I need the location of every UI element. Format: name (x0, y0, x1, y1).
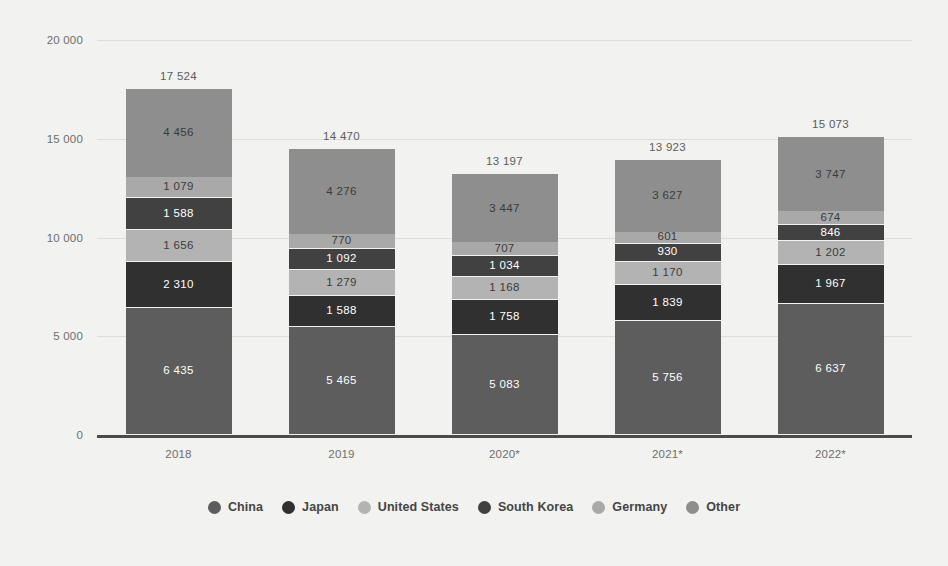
bar-segment-value: 1 967 (815, 278, 845, 290)
legend-label: Other (706, 500, 740, 514)
bar-segment[interactable]: 5 083 (452, 335, 558, 435)
bar-segment-value: 770 (331, 235, 351, 247)
bar-segment[interactable]: 1 168 (452, 277, 558, 300)
legend-label: Japan (302, 500, 339, 514)
bar-segment-value: 6 435 (163, 365, 193, 377)
bar-group[interactable]: 3 6276019301 1701 8395 75613 9232021* (615, 160, 721, 435)
bar-segment[interactable]: 770 (289, 234, 395, 249)
y-tick-label: 5 000 (53, 330, 83, 342)
bar-segment[interactable]: 846 (778, 225, 884, 242)
bar-series-container: 4 4561 0791 5881 6562 3106 43517 5242018… (97, 40, 912, 435)
bar-segment-value: 1 758 (489, 311, 519, 323)
legend-item[interactable]: United States (358, 500, 459, 514)
bar-segment-value: 6 637 (815, 363, 845, 375)
bar-group[interactable]: 4 4561 0791 5881 6562 3106 43517 5242018 (126, 89, 232, 435)
bar-segment-value: 4 276 (326, 186, 356, 198)
bar-segment-value: 5 083 (489, 379, 519, 391)
plot-area: Sales in million U.S. dollars 05 00010 0… (97, 40, 912, 438)
bar-segment[interactable]: 6 435 (126, 308, 232, 435)
bar-total-label: 17 524 (126, 70, 232, 82)
bar-segment-value: 1 656 (163, 240, 193, 252)
bar-segment-value: 1 202 (815, 247, 845, 259)
legend-label: United States (378, 500, 459, 514)
y-tick-label: 15 000 (47, 133, 83, 145)
legend-item[interactable]: China (208, 500, 263, 514)
x-tick-label: 2019 (289, 448, 395, 460)
bar-segment-value: 1 079 (163, 181, 193, 193)
legend-item[interactable]: Other (686, 500, 740, 514)
y-tick-label: 10 000 (47, 232, 83, 244)
y-tick-label: 20 000 (47, 34, 83, 46)
bar-stack: 3 6276019301 1701 8395 75613 9232021* (615, 160, 721, 435)
bar-segment-value: 930 (657, 246, 677, 258)
stacked-bar-chart: Sales in million U.S. dollars 05 00010 0… (0, 0, 948, 566)
legend-swatch-icon (592, 501, 605, 514)
bar-segment[interactable]: 1 202 (778, 241, 884, 265)
bar-segment-value: 846 (820, 227, 840, 239)
bar-segment-value: 5 465 (326, 375, 356, 387)
x-tick-label: 2021* (615, 448, 721, 460)
x-tick-label: 2022* (778, 448, 884, 460)
bar-segment[interactable]: 6 637 (778, 304, 884, 435)
bar-stack: 3 4477071 0341 1681 7585 08313 1972020* (452, 174, 558, 435)
bar-segment[interactable]: 1 279 (289, 270, 395, 295)
bar-group[interactable]: 3 4477071 0341 1681 7585 08313 1972020* (452, 174, 558, 435)
bar-segment[interactable]: 1 656 (126, 230, 232, 263)
bar-segment[interactable]: 1 092 (289, 249, 395, 271)
bar-segment[interactable]: 601 (615, 232, 721, 244)
legend-label: Germany (612, 500, 667, 514)
bar-segment-value: 5 756 (652, 372, 682, 384)
legend-swatch-icon (282, 501, 295, 514)
bar-stack: 4 4561 0791 5881 6562 3106 43517 5242018 (126, 89, 232, 435)
legend-swatch-icon (358, 501, 371, 514)
chart-legend: ChinaJapanUnited StatesSouth KoreaGerman… (0, 500, 948, 514)
legend-item[interactable]: Germany (592, 500, 667, 514)
bar-segment[interactable]: 2 310 (126, 262, 232, 308)
bar-segment-value: 1 168 (489, 282, 519, 294)
bar-segment[interactable]: 1 758 (452, 300, 558, 335)
bar-segment[interactable]: 1 079 (126, 177, 232, 198)
bar-stack: 4 2767701 0921 2791 5885 46514 4702019 (289, 149, 395, 435)
bar-total-label: 15 073 (778, 118, 884, 130)
bar-segment[interactable]: 4 456 (126, 89, 232, 177)
bar-segment[interactable]: 1 170 (615, 262, 721, 285)
x-tick-label: 2018 (126, 448, 232, 460)
bar-segment[interactable]: 5 756 (615, 321, 721, 435)
bar-segment[interactable]: 674 (778, 211, 884, 224)
legend-item[interactable]: South Korea (478, 500, 573, 514)
legend-swatch-icon (208, 501, 221, 514)
bar-segment-value: 3 627 (652, 190, 682, 202)
bar-segment-value: 1 034 (489, 260, 519, 272)
bar-segment[interactable]: 930 (615, 244, 721, 262)
bar-segment[interactable]: 3 627 (615, 160, 721, 232)
bar-segment[interactable]: 1 588 (289, 296, 395, 327)
bar-segment-value: 1 279 (326, 277, 356, 289)
bar-total-label: 13 197 (452, 155, 558, 167)
y-tick-label: 0 (76, 429, 83, 441)
bar-segment-value: 4 456 (163, 127, 193, 139)
x-tick-label: 2020* (452, 448, 558, 460)
bar-segment-value: 3 447 (489, 203, 519, 215)
bar-group[interactable]: 4 2767701 0921 2791 5885 46514 4702019 (289, 149, 395, 435)
bar-segment-value: 1 170 (652, 267, 682, 279)
bar-total-label: 13 923 (615, 141, 721, 153)
bar-segment[interactable]: 4 276 (289, 149, 395, 233)
legend-label: China (228, 500, 263, 514)
bar-segment[interactable]: 1 839 (615, 285, 721, 321)
bar-segment-value: 1 588 (163, 208, 193, 220)
x-axis-line (97, 435, 912, 438)
bar-segment[interactable]: 3 447 (452, 174, 558, 242)
legend-swatch-icon (686, 501, 699, 514)
bar-segment[interactable]: 3 747 (778, 137, 884, 211)
bar-segment[interactable]: 1 034 (452, 256, 558, 276)
bar-segment[interactable]: 5 465 (289, 327, 395, 435)
bar-segment-value: 674 (820, 212, 840, 224)
bar-segment[interactable]: 707 (452, 242, 558, 256)
bar-segment[interactable]: 1 588 (126, 198, 232, 229)
bar-segment[interactable]: 1 967 (778, 265, 884, 304)
bar-group[interactable]: 3 7476748461 2021 9676 63715 0732022* (778, 137, 884, 435)
legend-label: South Korea (498, 500, 573, 514)
bar-segment-value: 707 (494, 243, 514, 255)
legend-item[interactable]: Japan (282, 500, 339, 514)
bar-stack: 3 7476748461 2021 9676 63715 0732022* (778, 137, 884, 435)
